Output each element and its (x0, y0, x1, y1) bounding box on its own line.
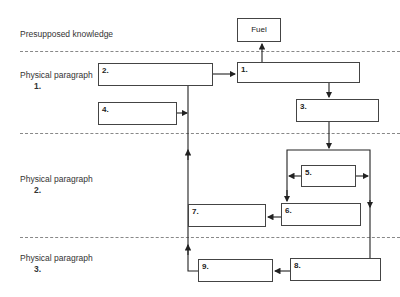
box-3: 3. (296, 99, 379, 122)
connector-lines (0, 0, 400, 297)
box-5: 5. (301, 165, 356, 187)
box-6: 6. (281, 203, 361, 226)
box-fuel: Fuel (237, 18, 281, 42)
box-7: 7. (188, 204, 266, 227)
box-1: 1. (237, 62, 360, 83)
box-8: 8. (290, 258, 381, 281)
box-9: 9. (198, 259, 273, 282)
box-2: 2. (98, 63, 213, 86)
box-4: 4. (98, 102, 177, 125)
